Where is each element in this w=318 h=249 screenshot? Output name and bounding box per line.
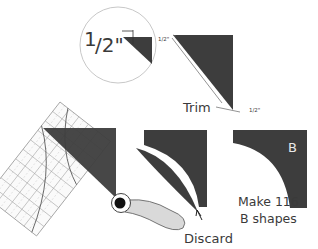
zoom-callout: 1 /2" [80, 7, 156, 83]
shape-letter: B [288, 140, 297, 155]
quilting-diagram: 1 /2" 1/2" 1/2" Trim [0, 0, 318, 249]
discard-label: Discard [184, 231, 233, 246]
instruction-line1: Make 116 [238, 194, 299, 209]
trim-label: Trim [182, 100, 211, 115]
seam-label-top: 1/2" [158, 36, 169, 42]
fraction-rest: /2" [95, 33, 124, 57]
ruler-cut-step [0, 102, 116, 236]
seam-label-bottom: 1/2" [249, 107, 260, 113]
rotary-cutter [112, 194, 185, 230]
instruction-line2: B shapes [240, 211, 297, 226]
cut-pieces: Discard [136, 130, 233, 246]
trim-triangle-step: 1/2" 1/2" Trim [158, 35, 260, 115]
finished-b-shape: B Make 116 B shapes [233, 130, 307, 226]
